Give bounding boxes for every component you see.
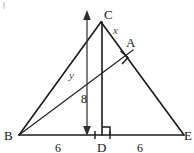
vertex-label-C: C xyxy=(104,7,113,22)
side-ca-variable-label: x xyxy=(112,24,118,36)
height-measure-arrowhead-top xyxy=(83,10,91,20)
vertex-label-A: A xyxy=(126,35,136,50)
segment-CE xyxy=(101,22,184,135)
segment-BA-cevian xyxy=(19,50,133,135)
diagram-canvas: B C E D A 6 6 8 x y xyxy=(0,0,194,153)
vertex-label-E: E xyxy=(184,128,192,143)
cevian-variable-label: y xyxy=(68,69,74,81)
segment-BC xyxy=(19,22,101,135)
right-angle-marker-D xyxy=(102,127,110,135)
vertex-label-B: B xyxy=(4,128,13,143)
base-left-measure-label: 6 xyxy=(55,141,61,153)
vertex-label-D: D xyxy=(97,140,106,153)
altitude-measure-label: 8 xyxy=(81,92,87,106)
base-right-measure-label: 6 xyxy=(137,141,143,153)
geometry-figure: B C E D A 6 6 8 x y xyxy=(0,0,194,153)
scan-artifact xyxy=(3,2,5,9)
